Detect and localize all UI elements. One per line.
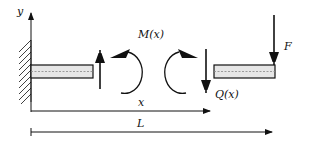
- moment-left-arc-icon: [121, 52, 142, 93]
- y-axis-label: y: [17, 6, 23, 17]
- length-dimension-arrow: [31, 128, 272, 136]
- x-dimension-label: x: [138, 97, 144, 108]
- moment-right-arrowhead-icon: [178, 49, 198, 58]
- moment-label: M(x): [138, 29, 164, 40]
- moment-right-arc-icon: [165, 52, 186, 93]
- cantilever-beam-diagram: [0, 0, 310, 143]
- length-label: L: [137, 118, 144, 129]
- moment-left-arrowhead-icon: [110, 49, 130, 58]
- shear-label: Q(x): [215, 89, 239, 100]
- force-label: F: [284, 41, 292, 52]
- fixed-wall-support: [19, 40, 31, 104]
- left-beam-segment: [31, 65, 93, 78]
- right-beam-segment: [214, 65, 275, 78]
